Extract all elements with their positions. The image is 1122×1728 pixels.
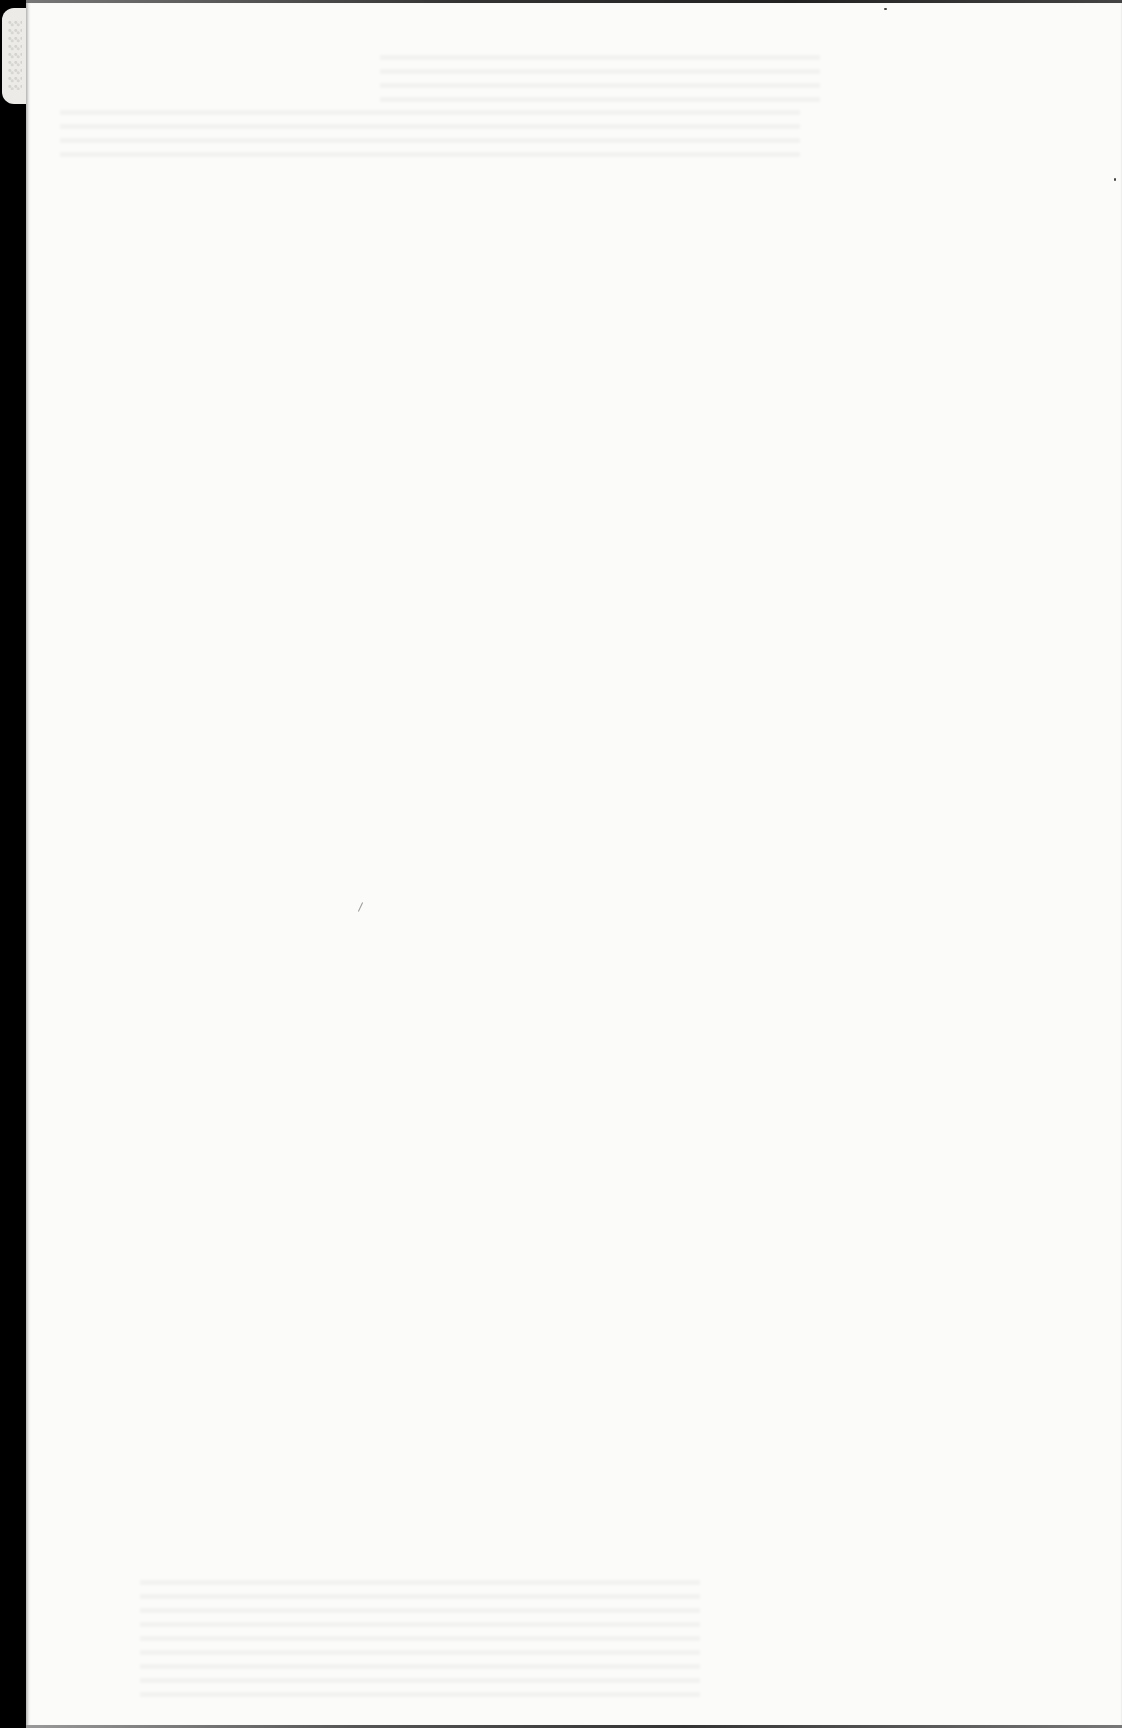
dust-speck — [884, 8, 887, 10]
scan-background — [0, 0, 1122, 1728]
bleed-through-top — [380, 55, 820, 105]
dust-speck — [1114, 178, 1116, 181]
page-top-edge — [26, 0, 1122, 3]
bleed-through-bottom — [140, 1580, 700, 1700]
bleed-through-top-lines — [60, 110, 800, 160]
blank-page — [26, 0, 1122, 1728]
